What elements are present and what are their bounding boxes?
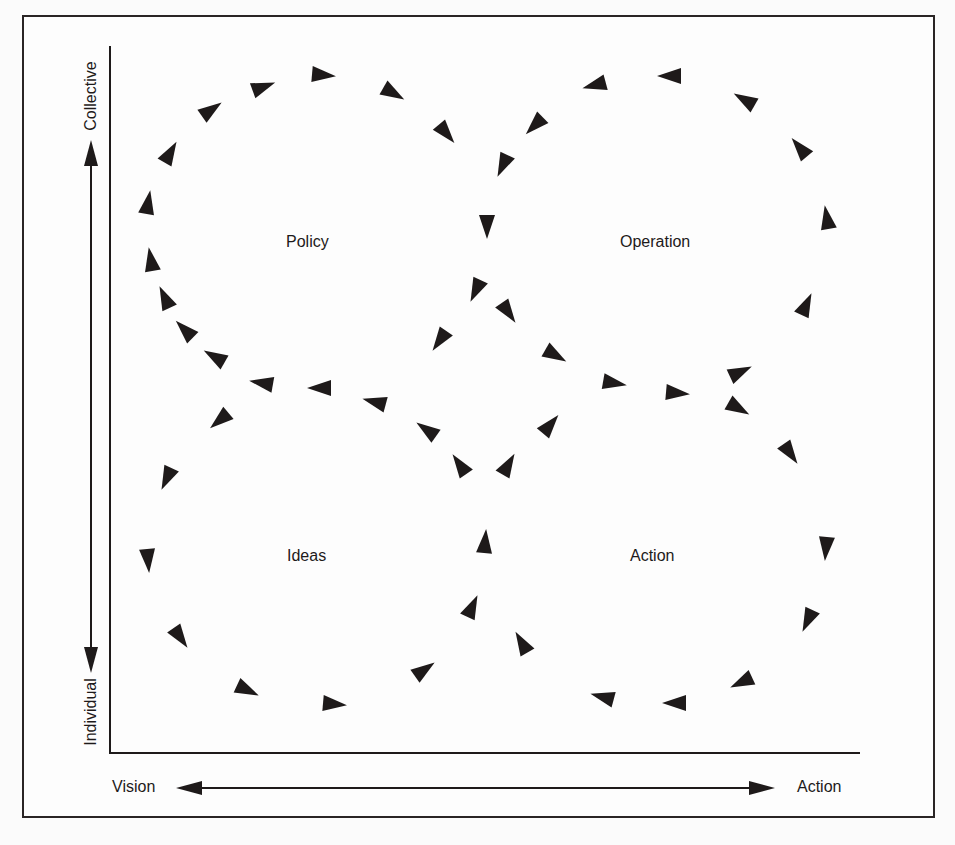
y-axis-top-label: Collective xyxy=(82,57,100,135)
flow-arrowhead-icon xyxy=(657,68,681,84)
flow-arrowhead-icon xyxy=(322,695,347,713)
flow-arrowhead-icon xyxy=(426,326,453,355)
flow-arrowhead-icon xyxy=(433,119,461,148)
flow-arrowhead-icon xyxy=(141,246,161,272)
flow-arrowhead-icon xyxy=(250,75,278,98)
flow-arrowhead-icon xyxy=(379,81,408,107)
y-axis-bottom-label: Individual xyxy=(82,673,100,751)
arrow-right-icon xyxy=(749,781,775,795)
flow-arrowhead-icon xyxy=(496,450,522,479)
axis-arrows xyxy=(0,0,955,845)
arrow-left-icon xyxy=(176,781,202,795)
quadrant-label-action: Action xyxy=(630,547,674,565)
x-axis-left-label: Vision xyxy=(112,778,155,796)
quadrant-label-operation: Operation xyxy=(620,233,690,251)
flow-arrowhead-icon xyxy=(154,465,179,494)
flow-arrowhead-icon xyxy=(412,416,441,443)
flow-arrowhead-icon xyxy=(665,384,690,402)
flow-arrowhead-icon xyxy=(200,344,229,370)
flow-arrowhead-icon xyxy=(205,407,234,435)
flow-arrowhead-icon xyxy=(727,359,756,384)
flow-arrowhead-icon xyxy=(541,343,570,369)
flow-arrowhead-icon xyxy=(138,189,158,215)
x-axis-right-label: Action xyxy=(797,778,841,796)
flow-arrowhead-icon xyxy=(817,204,837,230)
flow-arrowhead-icon xyxy=(197,96,226,123)
flow-arrowhead-icon xyxy=(724,396,753,422)
flow-arrowhead-icon xyxy=(817,536,835,561)
flow-arrowhead-icon xyxy=(662,695,686,711)
quadrant-label-policy: Policy xyxy=(286,233,329,251)
flow-arrowhead-icon xyxy=(727,670,756,695)
flow-arrowhead-icon xyxy=(490,152,515,181)
flow-arrowhead-icon xyxy=(307,380,331,396)
flow-arrowhead-icon xyxy=(311,66,336,84)
flow-arrowhead-icon xyxy=(479,215,495,239)
flow-arrowhead-icon xyxy=(248,373,274,393)
flow-arrowhead-icon xyxy=(580,74,607,96)
flow-arrowhead-icon xyxy=(158,138,184,167)
flow-arrowhead-icon xyxy=(794,290,819,319)
flow-arrowhead-icon xyxy=(167,623,194,652)
quadrant-label-ideas: Ideas xyxy=(287,547,326,565)
flow-arrowhead-icon xyxy=(152,283,177,312)
flow-arrowhead-icon xyxy=(777,439,804,468)
flow-arrowhead-icon xyxy=(730,87,759,113)
flow-arrowhead-icon xyxy=(460,592,485,621)
flow-arrowhead-icon xyxy=(602,373,628,393)
arrow-up-icon xyxy=(84,140,98,166)
flow-arrowhead-icon xyxy=(476,528,494,553)
arrow-down-icon xyxy=(84,647,98,673)
flow-arrowhead-icon xyxy=(446,450,473,479)
flow-arrowhead-icon xyxy=(786,133,814,162)
flow-arrowhead-icon xyxy=(234,678,263,703)
flow-arrowhead-icon xyxy=(463,277,488,306)
flow-arrowhead-icon xyxy=(520,112,548,140)
flow-arrowhead-icon xyxy=(139,548,157,573)
flow-arrowhead-icon xyxy=(537,410,565,439)
flow-arrows-group xyxy=(138,66,837,713)
flow-arrowhead-icon xyxy=(410,656,439,683)
flow-arrowhead-icon xyxy=(795,607,820,636)
flow-arrowhead-icon xyxy=(495,298,522,327)
flow-arrowhead-icon xyxy=(509,628,535,657)
flow-arrowhead-icon xyxy=(588,686,615,708)
flow-arrowhead-icon xyxy=(360,391,387,413)
flow-arrowhead-icon xyxy=(170,315,198,343)
